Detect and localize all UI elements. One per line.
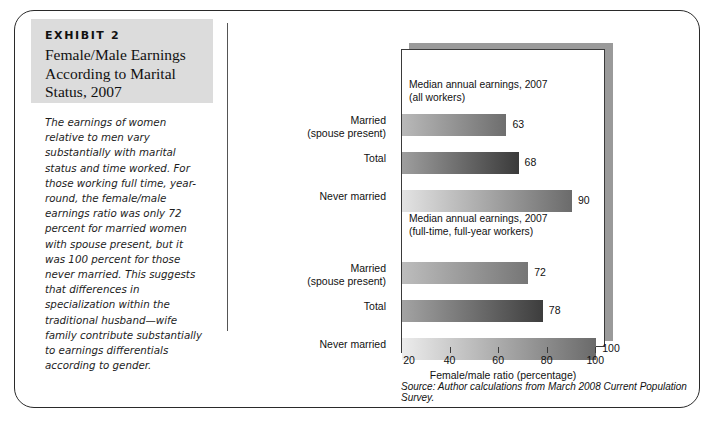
bar-row: 68 xyxy=(402,152,606,174)
vertical-divider xyxy=(227,23,228,331)
category-label: Never married xyxy=(319,338,386,351)
source-note: Source: Author calculations from March 2… xyxy=(401,381,701,403)
exhibit-body-text: The earnings of women relative to men va… xyxy=(45,115,205,373)
chart: Median annual earnings, 2007 (all worker… xyxy=(401,43,613,343)
bar-row: 90 xyxy=(402,190,606,212)
bar xyxy=(402,190,572,212)
x-axis-tick xyxy=(498,347,499,353)
category-label: Never married xyxy=(319,190,386,203)
x-axis-tick-label: 20 xyxy=(403,354,415,366)
category-labels: Married (spouse present)TotalNever marri… xyxy=(262,56,394,354)
bar xyxy=(402,300,543,322)
bar-row: 78 xyxy=(402,300,606,322)
x-axis-tick-label: 40 xyxy=(444,354,456,366)
category-label: Total xyxy=(364,152,386,165)
bar-value-label: 68 xyxy=(525,156,537,168)
bar-value-label: 78 xyxy=(549,304,561,316)
category-label: Total xyxy=(364,300,386,313)
bar-value-label: 72 xyxy=(534,266,546,278)
group-title-fulltime: Median annual earnings, 2007 (full-time,… xyxy=(409,212,548,238)
exhibit-label: EXHIBIT 2 xyxy=(45,29,205,43)
category-label: Married (spouse present) xyxy=(307,114,386,139)
bar-row: 63 xyxy=(402,114,606,136)
x-axis-tick xyxy=(450,347,451,353)
plot-area: Median annual earnings, 2007 (all worker… xyxy=(401,49,605,347)
bar xyxy=(402,114,506,136)
x-axis-title: Female/male ratio (percentage) xyxy=(401,369,605,381)
x-axis-tick xyxy=(547,347,548,353)
category-label: Married (spouse present) xyxy=(307,262,386,287)
bar-value-label: 63 xyxy=(512,118,524,130)
bar-value-label: 90 xyxy=(578,194,590,206)
exhibit-figure: EXHIBIT 2 Female/Male Earnings According… xyxy=(14,10,700,408)
bar xyxy=(402,262,528,284)
x-axis-tick-label: 100 xyxy=(587,354,605,366)
x-axis-tick xyxy=(595,347,596,353)
exhibit-title: Female/Male Earnings According to Marita… xyxy=(45,46,205,102)
exhibit-header-text: EXHIBIT 2 Female/Male Earnings According… xyxy=(45,29,205,102)
x-axis-tick-label: 80 xyxy=(541,354,553,366)
bar-row: 72 xyxy=(402,262,606,284)
x-axis-tick xyxy=(401,347,402,353)
group-title-all-workers: Median annual earnings, 2007 (all worker… xyxy=(409,78,548,104)
x-axis-tick-label: 60 xyxy=(492,354,504,366)
bar xyxy=(402,152,519,174)
